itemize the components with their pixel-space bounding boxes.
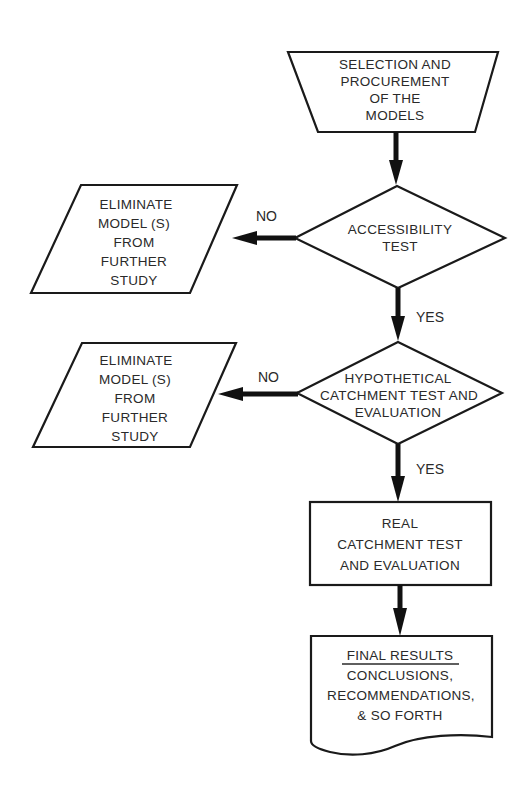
node-final-results: FINAL RESULTS CONCLUSIONS, RECOMMENDATIO… [311,636,492,755]
arrow-hypothetical-no: NO [218,369,298,401]
node-text-line: SELECTION AND [339,57,451,72]
node-text-line: STUDY [110,273,157,288]
node-text-line: ELIMINATE [100,353,173,368]
node-text-line: FURTHER [101,254,167,269]
node-text-line: RECOMMENDATIONS, [327,688,475,703]
edge-label-yes: YES [416,461,444,477]
node-text-line: HYPOTHETICAL [344,371,451,386]
node-real-catchment-test: REAL CATCHMENT TEST AND EVALUATION [310,502,491,585]
node-text-line: & SO FORTH [357,708,442,723]
node-text-line: ELIMINATE [100,197,173,212]
result-heading: FINAL RESULTS [347,648,454,663]
decision-accessibility-test: ACCESSIBILITY TEST [295,186,505,288]
edge-label-yes: YES [416,309,444,325]
decision-hypothetical-catchment: HYPOTHETICAL CATCHMENT TEST AND EVALUATI… [297,342,502,444]
edge-label-no: NO [258,369,279,385]
arrow-start-to-accessibility [389,132,403,185]
node-text-line: PROCUREMENT [340,74,449,89]
flowchart-canvas: SELECTION AND PROCUREMENT OF THE MODELS … [0,0,528,791]
node-text-line: CONCLUSIONS, [347,668,453,683]
node-text-line: FROM [115,391,156,406]
arrow-process-to-result [393,585,407,636]
node-text-line: FURTHER [102,410,168,425]
node-text-line: AND EVALUATION [340,558,460,573]
edge-label-no: NO [256,208,277,224]
node-text-line: EVALUATION [355,405,442,420]
node-text-line: MODELS [366,108,425,123]
node-selection-procurement: SELECTION AND PROCUREMENT OF THE MODELS [288,52,498,132]
node-text-line: CATCHMENT TEST AND [320,388,478,403]
arrow-accessibility-no: NO [232,208,296,245]
arrow-accessibility-yes: YES [391,288,444,341]
node-text-line: OF THE [369,91,420,106]
arrow-hypothetical-yes: YES [391,444,444,502]
node-text-line: TEST [382,239,418,254]
node-eliminate-models-1: ELIMINATE MODEL (S) FROM FURTHER STUDY [31,185,237,293]
node-text-line: ACCESSIBILITY [348,222,452,237]
node-eliminate-models-2: ELIMINATE MODEL (S) FROM FURTHER STUDY [33,343,236,447]
node-text-line: STUDY [111,429,158,444]
diamond-shape [295,186,505,288]
node-text-line: CATCHMENT TEST [337,537,463,552]
node-text-line: FROM [114,235,155,250]
node-text-line: REAL [382,516,419,531]
node-text-line: MODEL (S) [99,372,171,387]
node-text-line: MODEL (S) [98,216,170,231]
